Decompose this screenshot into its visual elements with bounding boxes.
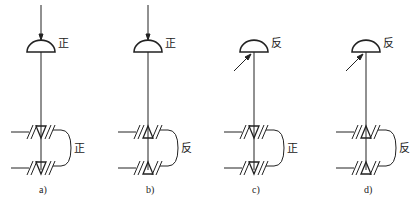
pair-direction-label: 反 xyxy=(181,143,192,154)
pair-bracket xyxy=(274,130,284,166)
panel-caption: c) xyxy=(252,185,260,195)
panel-b xyxy=(118,5,178,175)
pair-bracket xyxy=(61,130,71,166)
dome-direction-label: 反 xyxy=(271,38,282,49)
bearing-2 xyxy=(224,161,274,175)
panel-caption: a) xyxy=(39,185,47,195)
dome-icon xyxy=(240,40,268,52)
dome-icon xyxy=(134,40,162,52)
pair-direction-label: 正 xyxy=(74,143,85,154)
panel-c xyxy=(224,40,284,175)
dome-icon xyxy=(27,40,55,52)
pair-bracket xyxy=(386,130,396,166)
load-arrow-head-icon xyxy=(146,34,150,40)
bearing-1 xyxy=(118,125,168,139)
bearing-2 xyxy=(336,161,386,175)
dome-icon xyxy=(352,40,380,52)
bearing-arrangement-diagram xyxy=(0,0,414,204)
pair-direction-label: 正 xyxy=(287,143,298,154)
panel-d xyxy=(336,40,396,175)
dome-direction-label: 正 xyxy=(165,38,176,49)
pair-bracket xyxy=(168,130,178,166)
load-arrow-head-icon xyxy=(39,34,43,40)
bearing-1 xyxy=(11,125,61,139)
bearing-2 xyxy=(118,161,168,175)
panel-caption: d) xyxy=(364,185,372,195)
bearing-2 xyxy=(11,161,61,175)
dome-direction-label: 反 xyxy=(383,38,394,49)
panel-a xyxy=(11,5,71,175)
dome-direction-label: 正 xyxy=(58,38,69,49)
bearing-1 xyxy=(224,125,274,139)
panel-caption: b) xyxy=(146,185,154,195)
pair-direction-label: 反 xyxy=(399,143,410,154)
bearing-1 xyxy=(336,125,386,139)
